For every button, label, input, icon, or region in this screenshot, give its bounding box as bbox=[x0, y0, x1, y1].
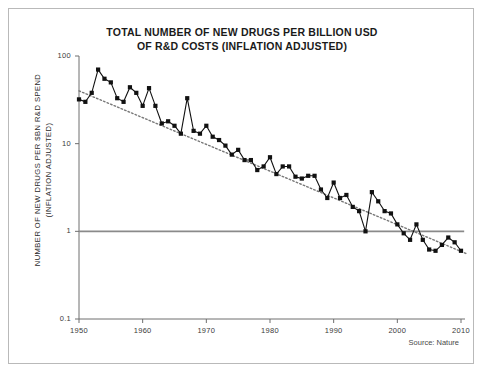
data-point-marker bbox=[402, 231, 406, 235]
data-point-marker bbox=[344, 193, 348, 197]
data-point-marker bbox=[370, 190, 374, 194]
data-point-marker bbox=[281, 164, 285, 168]
data-point-marker bbox=[134, 91, 138, 95]
data-point-marker bbox=[287, 164, 291, 168]
data-point-marker bbox=[166, 119, 170, 123]
y-tick-label: 10 bbox=[41, 139, 71, 148]
data-point-marker bbox=[198, 132, 202, 136]
chart-plot-area bbox=[9, 9, 475, 365]
data-line bbox=[79, 70, 461, 251]
data-point-marker bbox=[77, 97, 81, 101]
data-point-marker bbox=[128, 85, 132, 89]
chart-frame: TOTAL NUMBER OF NEW DRUGS PER BILLION US… bbox=[8, 8, 474, 364]
x-tick-label: 1980 bbox=[250, 326, 290, 335]
trend-line bbox=[79, 91, 467, 254]
data-point-marker bbox=[395, 222, 399, 226]
data-point-marker bbox=[223, 144, 227, 148]
data-point-marker bbox=[115, 96, 119, 100]
data-point-marker bbox=[293, 175, 297, 179]
data-point-marker bbox=[249, 158, 253, 162]
source-note: Source: Nature bbox=[409, 338, 459, 347]
data-point-marker bbox=[141, 104, 145, 108]
x-tick-label: 1970 bbox=[186, 326, 226, 335]
data-point-marker bbox=[376, 199, 380, 203]
data-point-marker bbox=[204, 124, 208, 128]
data-point-marker bbox=[274, 172, 278, 176]
data-point-marker bbox=[338, 196, 342, 200]
data-point-marker bbox=[153, 104, 157, 108]
data-point-marker bbox=[262, 164, 266, 168]
data-point-marker bbox=[306, 174, 310, 178]
data-point-marker bbox=[319, 187, 323, 191]
data-point-marker bbox=[351, 205, 355, 209]
x-tick-label: 2010 bbox=[441, 326, 481, 335]
data-point-marker bbox=[172, 124, 176, 128]
y-tick-label: 0.1 bbox=[41, 314, 71, 323]
x-tick-label: 1990 bbox=[314, 326, 354, 335]
data-point-marker bbox=[440, 243, 444, 247]
data-point-marker bbox=[121, 100, 125, 104]
data-point-marker bbox=[236, 148, 240, 152]
data-point-marker bbox=[90, 91, 94, 95]
x-tick-label: 1960 bbox=[123, 326, 163, 335]
data-point-marker bbox=[421, 238, 425, 242]
y-tick-label: 100 bbox=[41, 51, 71, 60]
data-point-marker bbox=[211, 135, 215, 139]
x-tick-label: 1950 bbox=[59, 326, 99, 335]
data-point-marker bbox=[179, 132, 183, 136]
data-point-marker bbox=[147, 86, 151, 90]
data-point-marker bbox=[268, 155, 272, 159]
data-point-marker bbox=[217, 138, 221, 142]
data-point-marker bbox=[363, 229, 367, 233]
data-point-marker bbox=[102, 77, 106, 81]
data-point-marker bbox=[427, 247, 431, 251]
data-point-marker bbox=[453, 240, 457, 244]
data-point-marker bbox=[160, 121, 164, 125]
y-tick-label: 1 bbox=[41, 226, 71, 235]
data-point-marker bbox=[446, 235, 450, 239]
data-point-marker bbox=[255, 168, 259, 172]
data-point-marker bbox=[83, 100, 87, 104]
data-point-marker bbox=[185, 96, 189, 100]
data-point-marker bbox=[242, 158, 246, 162]
data-point-marker bbox=[192, 129, 196, 133]
data-point-marker bbox=[300, 176, 304, 180]
data-point-marker bbox=[383, 209, 387, 213]
data-point-marker bbox=[414, 222, 418, 226]
data-point-marker bbox=[230, 153, 234, 157]
data-point-marker bbox=[312, 174, 316, 178]
x-tick-label: 2000 bbox=[377, 326, 417, 335]
data-point-marker bbox=[433, 249, 437, 253]
data-point-marker bbox=[325, 196, 329, 200]
data-point-marker bbox=[389, 211, 393, 215]
data-point-marker bbox=[332, 180, 336, 184]
data-point-marker bbox=[408, 238, 412, 242]
data-point-marker bbox=[109, 80, 113, 84]
data-point-marker bbox=[357, 209, 361, 213]
data-point-marker bbox=[96, 67, 100, 71]
data-point-marker bbox=[459, 249, 463, 253]
